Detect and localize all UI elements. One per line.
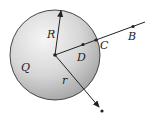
sphere-diagram: R D C B Q r <box>0 0 155 123</box>
center-point <box>53 53 57 57</box>
label-C: C <box>100 39 109 52</box>
point-D <box>81 43 84 46</box>
point-B <box>131 25 134 28</box>
label-Q: Q <box>21 61 30 74</box>
label-D: D <box>76 51 86 64</box>
r-end-point <box>100 109 103 112</box>
label-r: r <box>62 74 68 87</box>
diagram-canvas: R D C B Q r <box>0 0 155 123</box>
point-C <box>94 38 97 41</box>
label-B: B <box>127 30 136 43</box>
label-R: R <box>46 28 55 41</box>
